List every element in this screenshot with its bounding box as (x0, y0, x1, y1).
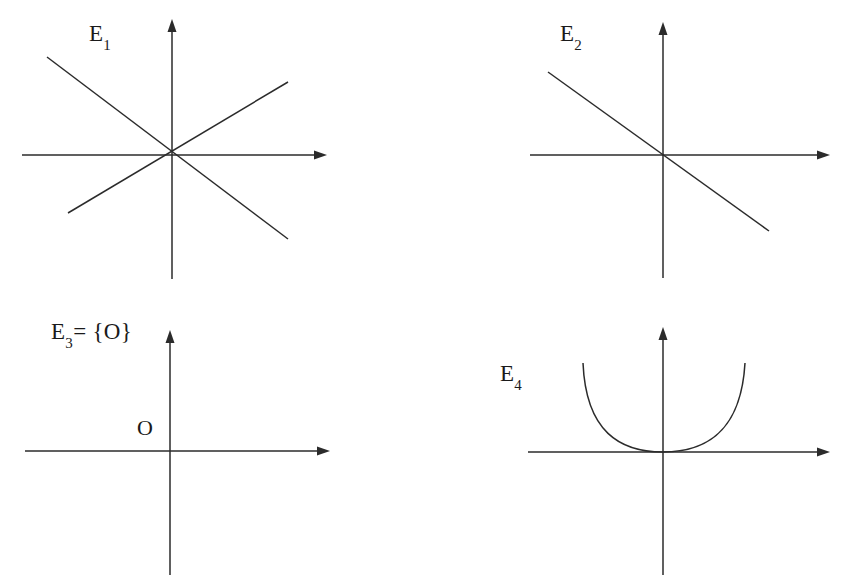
y-axis-arrowhead-e4 (659, 327, 668, 340)
panel-e1: E1 (0, 0, 423, 292)
panel-e4: E4 (423, 292, 846, 585)
panel-e3: E3= {O} O (0, 292, 423, 585)
y-axis-arrowhead-e2 (659, 22, 668, 35)
panel-label-subscript-e2: 2 (574, 37, 582, 53)
figure-root: E1 E2 E3= {O} O (0, 0, 846, 585)
panel-label-base-e2: E (560, 21, 574, 46)
panel-label-base-e4: E (500, 361, 514, 386)
y-axis-arrowhead-e1 (168, 19, 177, 32)
panel-label-suffix-e3: = {O} (73, 319, 132, 344)
origin-point-label-e3: O (137, 417, 153, 439)
descending-line-e1 (47, 57, 288, 239)
panel-e2: E2 (423, 0, 846, 292)
x-axis-arrowhead-e2 (817, 151, 830, 160)
panel-label-e2: E2 (560, 22, 582, 50)
panel-label-e3: E3= {O} (51, 320, 132, 348)
panel-label-e4: E4 (500, 362, 522, 390)
x-axis-arrowhead-e4 (817, 448, 830, 457)
x-axis-arrowhead-e3 (317, 447, 330, 456)
panel-label-subscript-e1: 1 (103, 37, 111, 53)
panel-label-subscript-e3: 3 (65, 335, 73, 351)
panel-label-e1: E1 (89, 22, 111, 50)
ascending-line-e1 (68, 82, 288, 213)
panel-label-base-e1: E (89, 21, 103, 46)
panel-e1-graphic (0, 0, 423, 292)
panel-e2-graphic (423, 0, 846, 292)
x-axis-arrowhead-e1 (314, 151, 327, 160)
parabola-e4 (583, 363, 745, 452)
panel-label-base-e3: E (51, 319, 65, 344)
panel-label-subscript-e4: 4 (514, 377, 522, 393)
negative-slope-line-e2 (548, 72, 769, 231)
panel-e4-graphic (423, 292, 846, 585)
y-axis-arrowhead-e3 (166, 330, 175, 343)
